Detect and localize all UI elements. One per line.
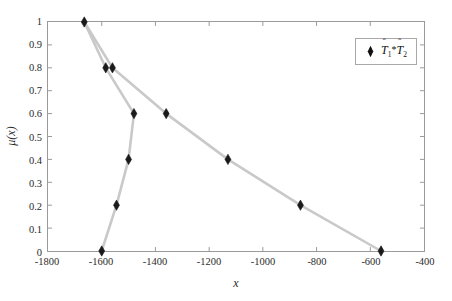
- series-lines: [84, 22, 381, 251]
- y-tick-label: 0.4: [29, 154, 42, 165]
- x-axis-label: x: [47, 276, 425, 291]
- x-tick-label: -1800: [35, 256, 60, 267]
- data-point-marker: [378, 246, 384, 256]
- series-line-right-branch: [84, 22, 381, 251]
- data-point-marker: [225, 154, 231, 164]
- legend-diamond-marker-icon: [365, 45, 376, 58]
- y-tick-label: 0.9: [29, 39, 42, 50]
- x-tick-label: -1200: [197, 256, 222, 267]
- x-tick-label: -1000: [251, 256, 276, 267]
- data-point-marker: [163, 108, 169, 118]
- y-axis-label: μ(x): [4, 126, 19, 145]
- x-tick-label: -600: [361, 256, 380, 267]
- y-tick-label: 0.6: [29, 108, 42, 119]
- legend-box: ˆT1*ˆT2: [355, 38, 417, 65]
- data-point-marker: [297, 200, 303, 210]
- y-tick-label: 0.8: [29, 62, 42, 73]
- series-line-left-branch: [84, 22, 134, 251]
- y-tick-label: 0.2: [29, 200, 42, 211]
- x-axis-tick-labels: -1800-1600-1400-1200-1000-800-600-400: [47, 256, 425, 272]
- legend-sub2: 2: [403, 50, 407, 59]
- series-markers: [81, 17, 384, 256]
- x-axis-ticks: [102, 22, 371, 251]
- x-tick-label: -1400: [143, 256, 168, 267]
- y-axis-ticks: [48, 45, 424, 228]
- hat-accent-icon-2: ˆ: [398, 38, 401, 47]
- y-tick-label: 0.5: [29, 131, 42, 142]
- y-tick-label: 0.1: [29, 223, 42, 234]
- y-tick-label: 0.3: [29, 177, 42, 188]
- x-tick-label: -400: [415, 256, 434, 267]
- legend-label: ˆT1*ˆT2: [381, 44, 407, 59]
- chart-figure: 00.10.20.30.40.50.60.70.80.91 -1800-1600…: [0, 0, 452, 301]
- y-tick-label: 1: [37, 16, 42, 27]
- x-tick-label: -800: [307, 256, 326, 267]
- x-tick-label: -1600: [89, 256, 114, 267]
- y-tick-label: 0.7: [29, 85, 42, 96]
- hat-accent-icon: ˆ: [383, 38, 386, 47]
